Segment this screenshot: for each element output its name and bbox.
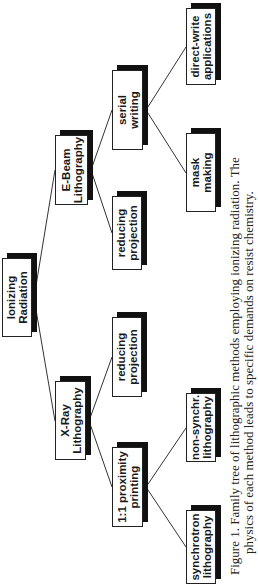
edge-root-xray xyxy=(34,298,55,421)
node-ebeam-lithography: E-Beam Lithography xyxy=(55,135,88,205)
edge-xray-reducing xyxy=(89,357,112,421)
figure-caption-line-1: Figure 1. Family tree of lithographic me… xyxy=(228,157,242,575)
figure-caption-line-2: physics of each method leads to specific… xyxy=(242,191,256,554)
edge-xray-proximity xyxy=(89,421,112,487)
node-reducing-projection-ebeam: reducing projection xyxy=(112,196,142,270)
edge-serial-mask xyxy=(146,110,186,173)
edge-proximity-nonsynchr xyxy=(146,428,186,487)
node-ionizing-radiation: Ionizing Radiation xyxy=(2,258,32,337)
node-proximity-printing: 1:1 proximity printing xyxy=(112,447,143,527)
node-reducing-projection-xray: reducing projection xyxy=(112,317,142,397)
node-synchrotron-lithography: synchrotron lithography xyxy=(186,510,216,584)
edge-ebeam-serial xyxy=(91,110,112,170)
node-nonsynchr-lithography: non-synchr. lithography xyxy=(186,393,216,462)
family-tree-diagram: Ionizing Radiation X-Ray Lithography E-B… xyxy=(0,0,258,584)
node-xray-lithography: X-Ray Lithography xyxy=(55,381,86,460)
node-direct-write-applications: direct-write applications xyxy=(186,8,216,85)
edge-ebeam-reducing xyxy=(91,170,112,233)
node-serial-writing: serial writing xyxy=(112,70,143,150)
edge-serial-directwrite xyxy=(146,47,186,110)
edge-proximity-synchrotron xyxy=(146,487,186,547)
edge-root-ebeam xyxy=(34,170,55,298)
node-mask-making: mask making xyxy=(186,133,216,212)
